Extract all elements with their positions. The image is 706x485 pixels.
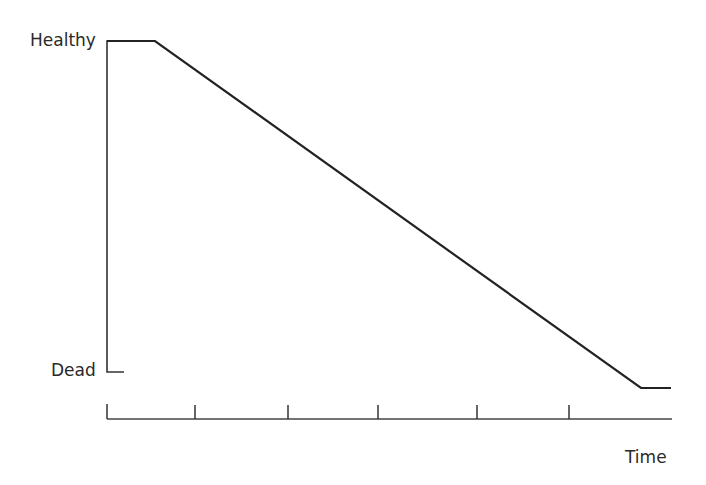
y-label-dead: Dead [51,360,96,380]
health-line [107,41,671,388]
y-axis [107,41,124,372]
x-axis-label: Time [625,447,667,467]
chart-canvas [0,0,706,485]
x-axis-ticks [107,404,569,419]
y-label-healthy: Healthy [30,30,96,50]
